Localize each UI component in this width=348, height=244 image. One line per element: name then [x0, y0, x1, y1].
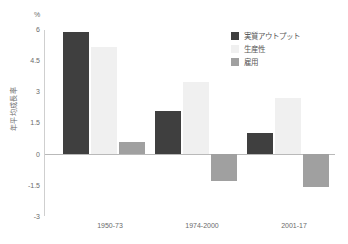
bar-real-output-2001-17 — [247, 133, 273, 154]
y-tick-label: 1.5 — [16, 119, 40, 127]
bar-productivity-1974-2000 — [183, 82, 209, 154]
bar-real-output-1974-2000 — [155, 111, 181, 154]
legend-item-productivity[interactable]: 生産性 — [231, 43, 343, 55]
legend-label: 生産性 — [244, 45, 265, 54]
x-tick-label-3: 2001-17 — [254, 222, 334, 229]
x-tick-label-1: 1950-73 — [70, 222, 150, 229]
legend-item-real-output[interactable]: 実質アウトプット — [231, 30, 343, 42]
bar-productivity-2001-17 — [275, 98, 301, 154]
legend-label: 雇用 — [244, 58, 258, 67]
bar-productivity-1950-73 — [91, 47, 117, 154]
legend-label: 実質アウトプット — [244, 32, 300, 41]
y-axis-title: 年平均成長率 — [8, 74, 18, 144]
legend-item-employment[interactable]: 雇用 — [231, 56, 343, 68]
legend: 実質アウトプット 生産性 雇用 — [231, 30, 343, 69]
bar-real-output-1950-73 — [63, 32, 89, 154]
legend-swatch-icon — [231, 32, 239, 40]
bar-employment-2001-17 — [303, 154, 329, 187]
x-tick-label-2: 1974-2000 — [162, 222, 242, 229]
y-tick-label: 6 — [16, 26, 40, 34]
bar-employment-1950-73 — [119, 142, 145, 154]
bar-chart: % 6 4.5 3 1.5 0 -1.5 -3 年平均成長率 1950-73 1… — [0, 0, 348, 244]
legend-swatch-icon — [231, 58, 239, 66]
y-tick-label: 0 — [16, 151, 40, 159]
zero-baseline — [45, 154, 335, 155]
y-tick-label: -3 — [16, 213, 40, 221]
legend-swatch-icon — [231, 45, 239, 53]
y-tick-label: 4.5 — [16, 57, 40, 65]
bar-employment-1974-2000 — [211, 154, 237, 181]
y-tick-label: -1.5 — [16, 182, 40, 190]
y-tick-label: 3 — [16, 88, 40, 96]
